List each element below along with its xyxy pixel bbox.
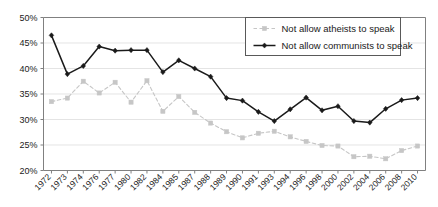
y-tick-label: 20%	[19, 166, 37, 176]
x-tick-label: 1990	[223, 172, 244, 193]
data-point-marker	[384, 157, 388, 161]
data-point-marker	[320, 143, 324, 147]
x-tick-label: 1988	[192, 172, 213, 193]
data-point-marker	[113, 80, 117, 84]
legend-label: Not allow communists to speak	[282, 40, 413, 51]
x-tick-label: 1987	[176, 172, 197, 193]
data-point-marker	[399, 98, 404, 103]
x-tick-label: 1974	[64, 172, 85, 193]
x-tick-label: 1998	[303, 172, 324, 193]
data-point-marker	[240, 136, 244, 140]
x-tick-label: 1991	[239, 172, 260, 193]
x-tick-label: 1982	[128, 172, 149, 193]
x-tick-label: 1976	[80, 172, 101, 193]
data-point-marker	[49, 33, 54, 38]
data-point-marker	[304, 139, 308, 143]
chart-container: 20%25%30%35%40%45%50% 197219731974197619…	[0, 0, 438, 207]
y-tick-label: 25%	[19, 140, 37, 150]
data-point-marker	[288, 135, 292, 139]
y-tick-label: 40%	[19, 64, 37, 74]
data-point-marker	[129, 100, 133, 104]
x-tick-label: 1973	[48, 172, 69, 193]
data-point-marker	[113, 48, 118, 53]
data-point-marker	[129, 48, 134, 53]
y-tick-label: 30%	[19, 115, 37, 125]
data-point-marker	[415, 95, 420, 100]
data-point-marker	[415, 144, 419, 148]
data-point-marker	[352, 155, 356, 159]
data-point-marker	[97, 91, 101, 95]
data-point-marker	[368, 154, 372, 158]
data-point-marker	[65, 72, 70, 77]
data-point-marker	[65, 96, 69, 100]
y-tick-label: 35%	[19, 89, 37, 99]
y-tick-label: 50%	[19, 13, 37, 23]
x-tick-label: 2010	[399, 172, 420, 193]
line-chart: 20%25%30%35%40%45%50% 197219731974197619…	[0, 0, 438, 207]
data-point-marker	[224, 130, 228, 134]
data-point-marker	[192, 66, 197, 71]
y-tick-label: 45%	[19, 38, 37, 48]
data-point-marker	[193, 110, 197, 114]
legend-label: Not allow atheists to speak	[282, 23, 395, 34]
x-tick-label: 2004	[351, 172, 372, 193]
x-tick-label: 1993	[255, 172, 276, 193]
x-tick-label: 2006	[367, 172, 388, 193]
x-tick-label: 1989	[208, 172, 229, 193]
x-tick-label: 2008	[383, 172, 404, 193]
data-point-marker	[256, 131, 260, 135]
chart-legend: Not allow atheists to speakNot allow com…	[246, 18, 413, 56]
x-tick-label: 1994	[271, 172, 292, 193]
x-tick-label: 1996	[287, 172, 308, 193]
x-tick-label: 1977	[96, 172, 117, 193]
data-point-marker	[272, 129, 276, 133]
data-point-marker	[177, 94, 181, 98]
data-point-marker	[400, 149, 404, 153]
x-tick-label: 1984	[144, 172, 165, 193]
data-point-marker	[262, 26, 266, 30]
y-axis: 20%25%30%35%40%45%50%	[19, 13, 43, 176]
x-axis: 1972197319741976197719801982198419851987…	[32, 171, 425, 193]
data-point-marker	[81, 79, 85, 83]
x-tick-label: 2000	[319, 172, 340, 193]
data-point-marker	[209, 121, 213, 125]
data-point-marker	[161, 109, 165, 113]
data-point-marker	[336, 144, 340, 148]
x-tick-label: 2002	[335, 172, 356, 193]
data-point-marker	[49, 100, 53, 104]
x-tick-label: 1980	[112, 172, 133, 193]
x-tick-label: 1985	[160, 172, 181, 193]
data-point-marker	[145, 79, 149, 83]
